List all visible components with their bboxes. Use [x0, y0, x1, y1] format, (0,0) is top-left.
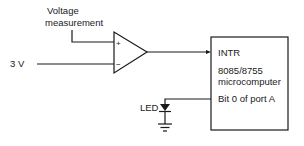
voltage-label-line1: Voltage — [47, 5, 79, 16]
minus-input-sign: − — [116, 60, 121, 69]
port-pin-label: Bit 0 of port A — [218, 93, 276, 104]
ground-icon — [158, 124, 172, 131]
led-wire — [165, 99, 211, 104]
microcomputer-type-label: microcomputer — [218, 76, 281, 87]
led-diode-icon — [159, 104, 171, 124]
led-label: LED — [140, 102, 159, 113]
circuit-diagram: Voltage measurement 3 V + − INTR 8085/87… — [0, 0, 304, 146]
reference-voltage-label: 3 V — [10, 58, 25, 69]
voltage-input-wire — [72, 30, 114, 42]
arrowhead-icon — [206, 50, 211, 54]
intr-pin-label: INTR — [218, 47, 240, 58]
voltage-label-line2: measurement — [45, 17, 103, 28]
microcomputer-model-label: 8085/8755 — [218, 65, 263, 76]
plus-input-sign: + — [116, 39, 121, 48]
